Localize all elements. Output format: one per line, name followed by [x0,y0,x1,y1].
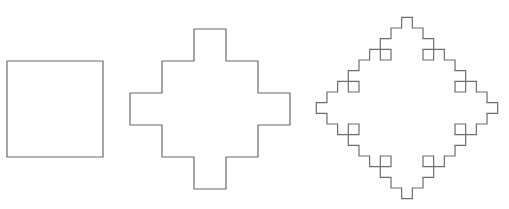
iteration-0-square [7,61,103,157]
iteration-2-fractal [316,17,497,198]
fractal-diagram [0,0,509,209]
iteration-1-cross [130,29,290,189]
